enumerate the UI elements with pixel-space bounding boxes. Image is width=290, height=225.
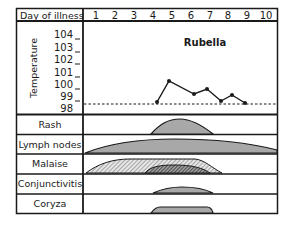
data-point <box>167 79 171 83</box>
day-tick: 1 <box>93 10 99 21</box>
y-tick: 102 <box>54 54 73 65</box>
data-point <box>205 87 209 91</box>
y-tick: 100 <box>54 79 73 90</box>
day-axis: 1 2 3 4 5 6 7 8 9 10 <box>93 10 273 21</box>
header-label: Day of illness <box>20 10 84 21</box>
day-tick: 8 <box>225 10 231 21</box>
day-tick: 2 <box>112 10 118 21</box>
data-point <box>243 101 247 105</box>
day-tick: 9 <box>244 10 250 21</box>
data-point <box>219 99 223 103</box>
rubella-chart: Day of illness 1 2 3 4 5 6 7 8 9 10 Temp… <box>0 0 290 225</box>
y-tick: 98 <box>60 103 73 114</box>
data-point <box>192 92 196 96</box>
y-axis: 104 103 102 101 100 99 98 <box>54 29 80 114</box>
day-tick: 5 <box>169 10 175 21</box>
row-label-rash: Rash <box>38 119 61 130</box>
data-point <box>230 93 234 97</box>
temperature-series <box>155 79 247 105</box>
y-axis-label: Temperature <box>28 38 39 99</box>
y-tick: 103 <box>54 42 73 53</box>
day-tick: 7 <box>207 10 213 21</box>
conjunctivitis-curve <box>153 187 213 193</box>
rash-curve <box>151 119 213 134</box>
day-tick: 6 <box>188 10 194 21</box>
chart-title: Rubella <box>184 37 226 48</box>
row-label-lymph-nodes: Lymph nodes <box>18 139 81 150</box>
day-tick: 4 <box>150 10 156 21</box>
lymph-nodes-curve <box>85 139 277 153</box>
day-tick: 10 <box>260 10 273 21</box>
row-label-coryza: Coryza <box>34 198 67 209</box>
y-tick: 101 <box>54 67 73 78</box>
coryza-curve <box>151 207 213 213</box>
row-label-malaise: Malaise <box>32 158 68 169</box>
day-tick: 3 <box>131 10 137 21</box>
row-label-conjunctivitis: Conjunctivitis <box>18 178 82 189</box>
y-tick: 99 <box>60 91 73 102</box>
y-tick: 104 <box>54 29 73 40</box>
data-point <box>155 100 159 104</box>
